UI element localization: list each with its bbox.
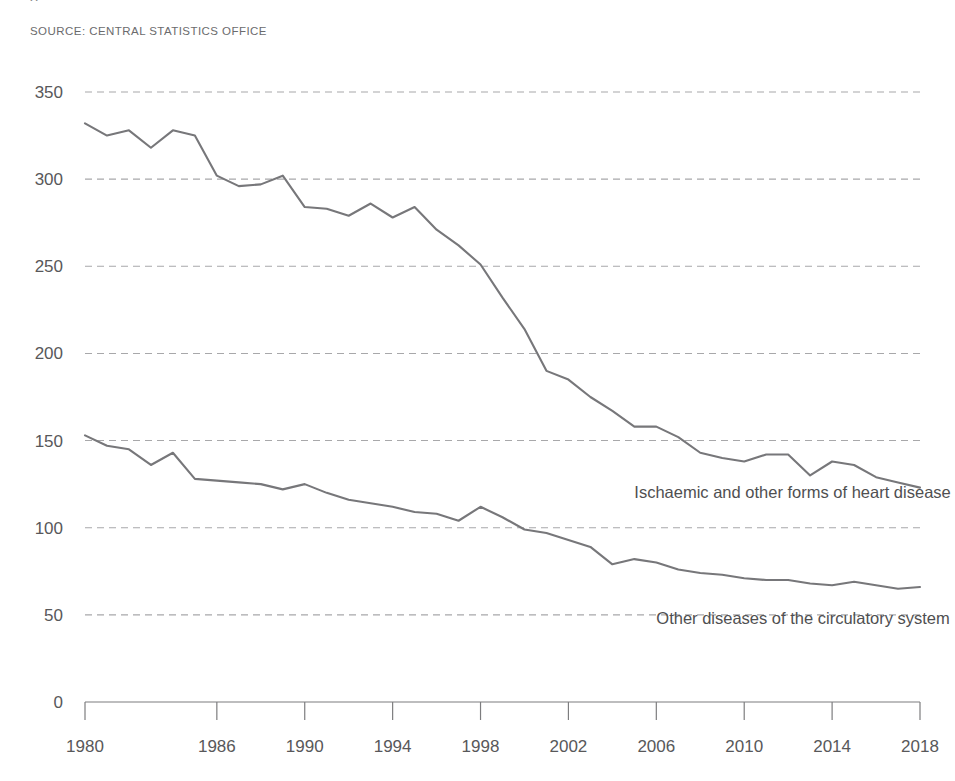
y-tick-label-300: 300 (35, 170, 63, 189)
series-annotation-0: Ischaemic and other forms of heart disea… (634, 483, 950, 501)
x-tick-label-2006: 2006 (637, 737, 675, 756)
x-tick-label-2018: 2018 (901, 737, 939, 756)
x-axis-group (85, 702, 920, 720)
y-tick-label-150: 150 (35, 432, 63, 451)
y-tick-label-250: 250 (35, 257, 63, 276)
x-tick-label-1980: 1980 (66, 737, 104, 756)
y-tick-label-0: 0 (54, 693, 63, 712)
y-tick-label-50: 50 (44, 606, 63, 625)
x-tick-label-2002: 2002 (550, 737, 588, 756)
line-chart-svg: 050100150200250300350 198019861990199419… (0, 0, 955, 781)
x-axis-tick-labels: 1980198619901994199820022006201020142018 (66, 737, 939, 756)
y-tick-label-350: 350 (35, 83, 63, 102)
y-tick-label-200: 200 (35, 344, 63, 363)
chart-container: g SOURCE: CENTRAL STATISTICS OFFICE 0501… (0, 0, 955, 781)
series-annotations-group: Ischaemic and other forms of heart disea… (634, 483, 950, 626)
y-axis-tick-labels: 050100150200250300350 (35, 83, 63, 712)
series-line-1 (85, 435, 920, 588)
series-line-0 (85, 123, 920, 487)
x-tick-label-2010: 2010 (725, 737, 763, 756)
x-tick-label-1986: 1986 (198, 737, 236, 756)
y-tick-label-100: 100 (35, 519, 63, 538)
series-annotation-1: Other diseases of the circulatory system (656, 609, 949, 627)
data-series-group (85, 123, 920, 588)
x-tick-label-1990: 1990 (286, 737, 324, 756)
gridlines-group (85, 92, 920, 615)
x-tick-label-1994: 1994 (374, 737, 412, 756)
x-tick-label-2014: 2014 (813, 737, 851, 756)
x-tick-label-1998: 1998 (462, 737, 500, 756)
